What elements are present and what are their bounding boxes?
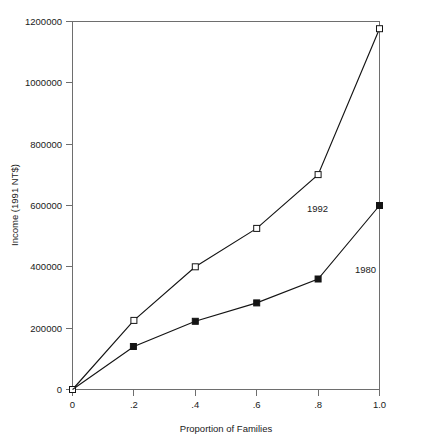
x-tick-label: 1.0 [373,399,386,410]
series-1992-label: 1992 [307,203,328,214]
series-1992-marker [315,172,321,178]
x-tick-label: .8 [314,399,322,410]
y-tick-label: 600000 [30,200,62,211]
series-1992-marker [254,225,260,231]
series-1980-marker [315,276,321,282]
x-tick-label: .2 [130,399,138,410]
y-axis-title: Income (1991 NT$) [9,164,20,246]
series-1980-marker [377,203,383,209]
series-1980-marker [254,300,260,306]
y-tick-label: 400000 [30,261,62,272]
x-tick-label: .6 [253,399,261,410]
x-tick-label: .4 [191,399,199,410]
y-tick-label: 200000 [30,323,62,334]
y-tick-label: 0 [57,384,62,395]
series-1980-label: 1980 [355,264,376,275]
chart-svg: 1200000 1000000 800000 600000 400000 200… [0,0,428,444]
series-1980-marker [130,344,136,350]
series-1992-marker [192,264,198,270]
y-tick-label: 1200000 [25,16,62,27]
series-1992-marker [131,317,137,323]
x-axis-title: Proportion of Families [180,423,273,434]
series-1992-marker [377,26,383,32]
income-distribution-chart: 1200000 1000000 800000 600000 400000 200… [0,0,428,444]
y-tick-label: 1000000 [25,77,62,88]
series-1980-marker [192,318,198,324]
y-tick-label: 800000 [30,139,62,150]
x-tick-label: 0 [70,399,75,410]
